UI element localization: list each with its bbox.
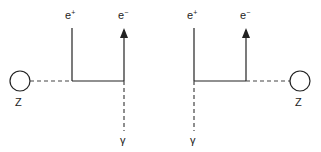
z-label: Z [295, 96, 302, 108]
right-diagram: Z e+ e− γ [187, 9, 310, 146]
photon-label: γ [190, 134, 196, 146]
feynman-diagrams: Z e+ e− γ Z e+ e− γ [0, 0, 321, 152]
electron-label: e− [118, 9, 128, 21]
photon-label: γ [120, 134, 126, 146]
left-diagram: Z e+ e− γ [10, 9, 128, 146]
z-label: Z [15, 96, 22, 108]
electron-arrowhead-icon [242, 28, 250, 38]
electron-label: e− [240, 9, 250, 21]
positron-label: e+ [187, 9, 197, 21]
z-boson-circle [10, 71, 30, 91]
electron-arrowhead-icon [120, 28, 128, 38]
z-boson-circle [290, 71, 310, 91]
positron-label: e+ [65, 9, 75, 21]
